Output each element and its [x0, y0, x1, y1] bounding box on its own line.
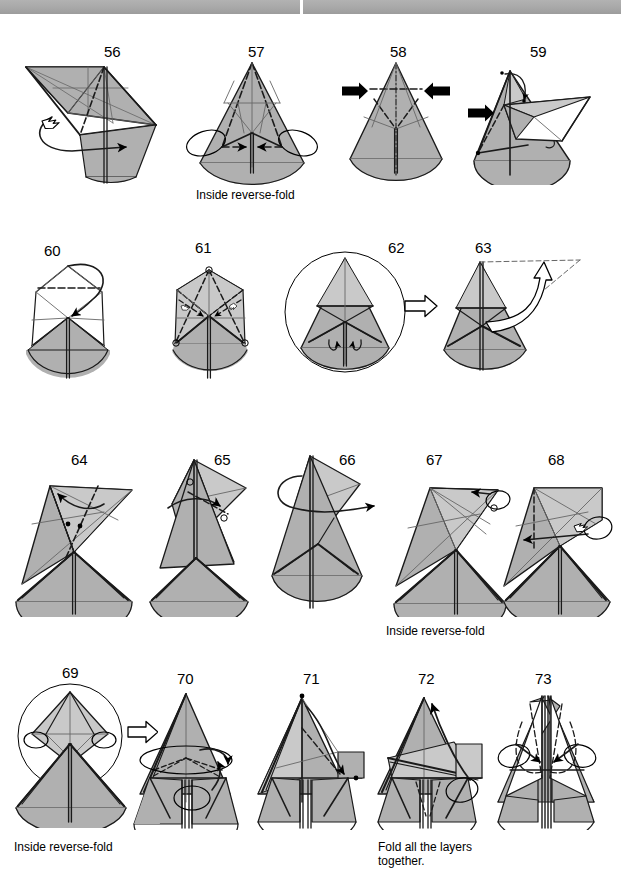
step-number-60: 60 [44, 243, 61, 258]
origami-figure-71 [252, 682, 376, 830]
origami-diagram-svg-62 [283, 244, 441, 382]
origami-figure-73 [486, 682, 616, 830]
origami-diagram-svg-70 [130, 682, 255, 830]
origami-diagram-svg-67 [386, 462, 514, 617]
header-band-right [303, 0, 621, 14]
origami-figure-62 [283, 244, 441, 382]
step-caption-67: Inside reverse-fold [386, 624, 485, 638]
step-caption-72: Fold all the layers together. [378, 840, 472, 868]
origami-figure-58 [336, 55, 458, 185]
step-number-70: 70 [177, 671, 194, 686]
origami-diagram-svg-61 [155, 250, 267, 382]
step-number-67: 67 [426, 452, 443, 467]
step-number-66: 66 [339, 452, 356, 467]
origami-diagram-svg-73 [486, 682, 616, 830]
step-number-69: 69 [62, 665, 79, 680]
origami-figure-72 [370, 682, 496, 830]
origami-figure-60 [10, 250, 130, 382]
header-band-left [0, 0, 300, 14]
step-number-72: 72 [418, 671, 435, 686]
step-number-61: 61 [195, 240, 212, 255]
step-number-63: 63 [475, 240, 492, 255]
origami-figure-56 [8, 55, 160, 185]
origami-diagram-svg-64 [8, 462, 140, 617]
origami-diagram-svg-59 [458, 55, 614, 185]
step-number-62: 62 [388, 240, 405, 255]
step-number-65: 65 [214, 452, 231, 467]
origami-instruction-page: 5657Inside reverse-fold58596061626364656… [0, 0, 621, 896]
origami-figure-67 [386, 462, 514, 617]
step-number-64: 64 [71, 452, 88, 467]
page-header-band [0, 0, 621, 14]
origami-figure-64 [8, 462, 140, 617]
origami-diagram-svg-71 [252, 682, 376, 830]
step-number-56: 56 [104, 44, 121, 59]
origami-diagram-svg-58 [336, 55, 458, 185]
origami-diagram-svg-57 [182, 55, 322, 185]
step-number-59: 59 [530, 44, 547, 59]
origami-diagram-svg-65 [138, 452, 258, 617]
origami-figure-59 [458, 55, 614, 185]
origami-figure-63 [440, 246, 608, 382]
origami-diagram-svg-63 [440, 246, 608, 382]
origami-diagram-svg-60 [10, 250, 130, 382]
origami-diagram-svg-56 [8, 55, 160, 185]
step-number-58: 58 [390, 44, 407, 59]
origami-figure-65 [138, 452, 258, 617]
step-number-73: 73 [535, 671, 552, 686]
step-number-57: 57 [248, 44, 265, 59]
origami-figure-68 [498, 462, 620, 617]
origami-figure-70 [130, 682, 255, 830]
origami-diagram-svg-68 [498, 462, 620, 617]
origami-figure-57 [182, 55, 322, 185]
step-number-68: 68 [548, 452, 565, 467]
step-caption-69: Inside reverse-fold [14, 840, 113, 854]
origami-diagram-svg-66 [258, 448, 390, 616]
origami-figure-61 [155, 250, 267, 382]
origami-figure-66 [258, 448, 390, 616]
step-caption-57: Inside reverse-fold [196, 188, 295, 202]
step-number-71: 71 [303, 671, 320, 686]
origami-diagram-svg-72 [370, 682, 496, 830]
